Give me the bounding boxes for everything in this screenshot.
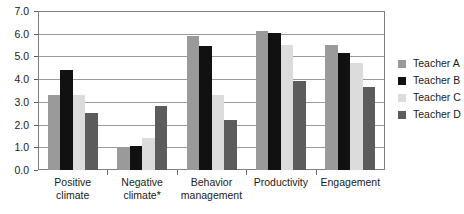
y-axis-tick-label: 1.0 <box>14 142 29 152</box>
x-axis: PositiveclimateNegativeclimate*Behaviorm… <box>0 176 464 214</box>
bar <box>350 63 363 170</box>
bar <box>363 87 376 170</box>
bar <box>73 95 86 170</box>
bars-layer <box>38 11 385 170</box>
legend-item[interactable]: Teacher A <box>398 55 464 72</box>
bar <box>117 147 130 170</box>
bar <box>268 33 281 170</box>
x-axis-group-label: Engagement <box>302 176 398 189</box>
y-axis-tick-label: 7.0 <box>14 6 29 16</box>
bar-chart: 7.06.05.04.03.02.01.00.0 Positiveclimate… <box>0 0 464 214</box>
bar <box>85 113 98 170</box>
bar <box>256 31 269 170</box>
x-axis-group-label-line1: Engagement <box>302 176 398 189</box>
legend: Teacher ATeacher BTeacher CTeacher D <box>398 55 464 123</box>
bar <box>142 138 155 170</box>
bar <box>187 36 200 170</box>
legend-item-label: Teacher C <box>413 92 461 103</box>
bar <box>293 81 306 170</box>
bar <box>60 70 73 170</box>
bar <box>212 95 225 170</box>
y-axis-tick-label: 3.0 <box>14 97 29 107</box>
legend-item-label: Teacher B <box>413 75 460 86</box>
legend-swatch-icon <box>398 60 406 68</box>
y-axis-tick-label: 5.0 <box>14 51 29 61</box>
x-axis-group-separator <box>107 170 108 175</box>
x-axis-group-separator <box>316 170 317 175</box>
legend-item-label: Teacher D <box>413 109 461 120</box>
legend-swatch-icon <box>398 77 406 85</box>
x-axis-group-label-line2: management <box>164 189 260 202</box>
x-axis-group-separator <box>177 170 178 175</box>
x-axis-group-separator <box>246 170 247 175</box>
legend-swatch-icon <box>398 94 406 102</box>
bar <box>325 45 338 170</box>
bar <box>199 46 212 170</box>
bar <box>130 146 143 170</box>
y-axis-tick-label: 0.0 <box>14 165 29 175</box>
bar <box>281 45 294 170</box>
y-axis-tick-label: 4.0 <box>14 74 29 84</box>
bar <box>48 95 61 170</box>
y-axis-tick-label: 2.0 <box>14 120 29 130</box>
y-axis-tick-label: 6.0 <box>14 29 29 39</box>
legend-item[interactable]: Teacher D <box>398 106 464 123</box>
bar <box>155 106 168 170</box>
legend-item[interactable]: Teacher C <box>398 89 464 106</box>
legend-swatch-icon <box>398 111 406 119</box>
bar <box>338 53 351 170</box>
legend-item-label: Teacher A <box>413 58 460 69</box>
bar <box>224 120 237 170</box>
legend-item[interactable]: Teacher B <box>398 72 464 89</box>
y-axis-tick-mark <box>34 170 38 171</box>
